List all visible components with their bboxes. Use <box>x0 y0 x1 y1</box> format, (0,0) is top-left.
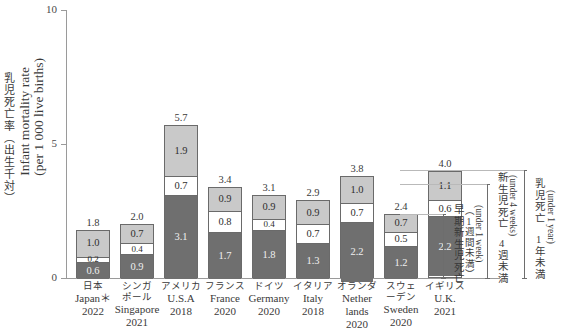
stacked-bar[interactable]: 0.90.41.8 <box>252 195 286 278</box>
segment-postneonatal-value: 1.0 <box>350 185 363 196</box>
segment-postneonatal[interactable]: 1.9 <box>165 126 197 177</box>
segment-postneonatal[interactable]: 0.7 <box>385 215 417 234</box>
stacked-bar[interactable]: 0.90.71.3 <box>296 200 330 278</box>
y-axis-title-japanese: 乳児死亡率（出生千対） <box>2 72 14 204</box>
country-label-jp: イギリス <box>416 281 474 292</box>
y-axis-title-english: Infant mortality rate (per 1 000 live bi… <box>18 58 46 176</box>
country-year-label: 2020 <box>372 316 430 329</box>
label-neonatal-jp-sub: 4週未満 <box>495 238 507 284</box>
plot-area: 1.00.20.61.80.70.40.92.01.90.73.15.70.90… <box>67 10 500 278</box>
stacked-bar[interactable]: 1.00.72.2 <box>340 176 374 278</box>
segment-early-neonatal[interactable]: 3.1 <box>165 196 197 279</box>
bar-group[interactable]: 0.90.81.73.4 <box>204 10 246 278</box>
stacked-bar[interactable]: 1.00.20.6 <box>76 230 110 278</box>
segment-postneonatal-value: 0.7 <box>394 218 407 229</box>
bar-group[interactable]: 1.00.20.61.8 <box>72 10 114 278</box>
bar-total-label: 4.0 <box>424 158 466 169</box>
segment-postneonatal-value: 1.0 <box>86 238 99 249</box>
bar-total-label: 3.1 <box>248 182 290 193</box>
segment-neonatal-remainder-value: 0.8 <box>218 217 231 228</box>
stacked-bar[interactable]: 0.70.40.9 <box>120 224 154 278</box>
stacked-bar[interactable]: 0.70.51.2 <box>384 214 418 278</box>
segment-postneonatal[interactable]: 1.0 <box>341 177 373 204</box>
label-infant-en: (under 1 year) <box>546 190 556 244</box>
bar-group[interactable]: 1.00.72.23.8 <box>336 10 378 278</box>
segment-postneonatal[interactable]: 1.1 <box>429 172 461 201</box>
bar-group[interactable]: 0.70.51.22.4 <box>380 10 422 278</box>
segment-neonatal-remainder-value: 0.7 <box>306 229 319 240</box>
segment-early-neonatal[interactable]: 1.7 <box>209 233 241 279</box>
bar-group[interactable]: 1.90.73.15.7 <box>160 10 202 278</box>
segment-early-neonatal-value: 1.3 <box>306 256 319 267</box>
y-tick-label-0: 0 <box>31 271 57 283</box>
y-tick-mark-0 <box>61 278 66 279</box>
segment-early-neonatal-value: 0.9 <box>130 262 143 273</box>
bar-total-label: 3.8 <box>336 163 378 174</box>
segment-neonatal-remainder[interactable]: 0.7 <box>341 204 373 223</box>
y-tick-mark-10 <box>61 10 66 11</box>
bar-total-label: 2.0 <box>116 211 158 222</box>
bar-total-label: 1.8 <box>72 217 114 228</box>
segment-postneonatal-value: 1.9 <box>174 146 187 157</box>
segment-neonatal-remainder[interactable]: 0.7 <box>297 225 329 244</box>
segment-neonatal-remainder[interactable]: 0.8 <box>209 212 241 233</box>
segment-neonatal-remainder[interactable]: 0.4 <box>121 244 153 255</box>
label-infant-jp: 乳児死亡 <box>532 178 544 224</box>
segment-early-neonatal-value: 2.2 <box>350 247 363 258</box>
segment-neonatal-remainder-value: 0.4 <box>131 245 142 254</box>
bar-group[interactable]: 0.90.71.32.9 <box>292 10 334 278</box>
y-tick-label-10: 10 <box>31 3 57 15</box>
label-early-neonatal-jp: 早期新生児死亡 <box>451 204 463 285</box>
segment-early-neonatal[interactable]: 0.9 <box>121 255 153 279</box>
y-tick-label-5: 5 <box>31 137 57 149</box>
segment-neonatal-remainder[interactable]: 0.4 <box>253 220 285 231</box>
bar-group[interactable]: 0.90.41.83.1 <box>248 10 290 278</box>
segment-neonatal-remainder-value: 0.5 <box>394 234 407 245</box>
segment-neonatal-remainder-value: 0.4 <box>263 220 274 229</box>
label-neonatal-jp: 新生児死亡 <box>495 172 507 230</box>
segment-postneonatal-value: 0.9 <box>218 194 231 205</box>
label-early-neonatal-en: (under 1 week) <box>474 205 484 263</box>
segment-neonatal-remainder-value: 0.7 <box>350 208 363 219</box>
bar-total-label: 2.4 <box>380 201 422 212</box>
segment-early-neonatal-value: 1.8 <box>262 250 275 261</box>
stacked-bar[interactable]: 1.90.73.1 <box>164 125 198 278</box>
bar-total-label: 5.7 <box>160 112 202 123</box>
bar-total-label: 3.4 <box>204 174 246 185</box>
segment-neonatal-remainder-value: 0.7 <box>174 181 187 192</box>
country-year-label: 2021 <box>416 305 474 318</box>
stacked-bar[interactable]: 0.90.81.7 <box>208 187 242 278</box>
segment-early-neonatal[interactable]: 1.2 <box>385 247 417 279</box>
bar-total-label: 2.9 <box>292 187 334 198</box>
segment-neonatal-remainder[interactable]: 0.5 <box>385 233 417 246</box>
segment-early-neonatal-value: 3.1 <box>174 232 187 243</box>
y-tick-mark-5 <box>61 144 66 145</box>
country-label-en: U.K. <box>416 292 474 305</box>
y-axis-title-en-line2: (per 1 000 live births) <box>32 58 46 176</box>
country-year-label: 2021 <box>108 316 166 329</box>
bar-group[interactable]: 0.70.40.92.0 <box>116 10 158 278</box>
segment-early-neonatal[interactable]: 1.3 <box>297 244 329 279</box>
segment-postneonatal-value: 0.7 <box>130 229 143 240</box>
segment-early-neonatal[interactable]: 1.8 <box>253 231 285 279</box>
segment-postneonatal[interactable]: 0.7 <box>121 225 153 244</box>
segment-postneonatal-value: 1.1 <box>438 181 451 192</box>
label-early-neonatal-jp-sub: （1週間未満） <box>463 206 474 280</box>
segment-early-neonatal-value: 0.6 <box>86 266 99 277</box>
x-axis-label-u.k.: イギリスU.K.2021 <box>416 281 474 318</box>
segment-early-neonatal[interactable]: 2.2 <box>341 223 373 282</box>
y-axis-title-en-line1: Infant mortality rate <box>18 58 32 176</box>
segment-postneonatal[interactable]: 0.9 <box>209 188 241 212</box>
segment-early-neonatal[interactable]: 0.6 <box>77 263 109 279</box>
label-infant-jp-sub: 1年未満 <box>532 234 544 280</box>
segment-postneonatal[interactable]: 0.9 <box>297 201 329 225</box>
segment-neonatal-remainder[interactable]: 0.7 <box>165 177 197 196</box>
segment-early-neonatal-value: 1.2 <box>394 258 407 269</box>
segment-early-neonatal-value: 2.2 <box>438 242 451 253</box>
segment-postneonatal-value: 0.9 <box>262 202 275 213</box>
segment-early-neonatal-value: 1.7 <box>218 251 231 262</box>
segment-neonatal-remainder-value: 0.6 <box>438 204 451 215</box>
segment-postneonatal[interactable]: 0.9 <box>253 196 285 220</box>
label-neonatal-en: (under 4 weeks) <box>508 175 518 236</box>
